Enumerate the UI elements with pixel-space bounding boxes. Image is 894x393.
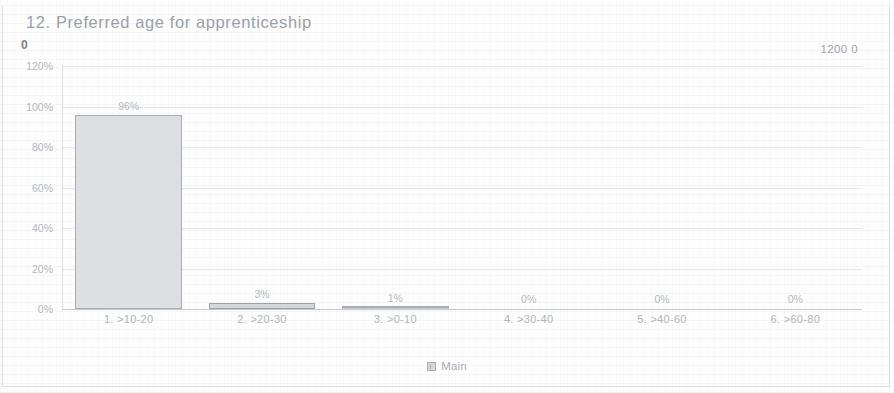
y-axis-tick-label: 0% [38, 303, 53, 315]
chart-legend: Main [0, 360, 894, 372]
header-left-value: 0 [21, 38, 28, 52]
bar-value-label: 0% [609, 293, 716, 305]
bar-slot: 0% [729, 66, 862, 309]
y-axis-tick-label: 100% [26, 101, 53, 113]
x-axis-tick-label: 5. >40-60 [637, 313, 687, 325]
page-title: 12. Preferred age for apprenticeship [26, 13, 312, 32]
x-axis-tick-label: 4. >30-40 [504, 313, 554, 325]
x-axis-tick-label: 2. >20-30 [237, 313, 287, 325]
bar-value-label: 0% [475, 293, 582, 305]
bar-value-label: 0% [742, 293, 849, 305]
x-axis-labels-group: 1. >10-202. >20-303. >0-104. >30-405. >4… [62, 313, 862, 335]
bar-value-label: 3% [210, 288, 315, 300]
bar-slot: 0% [595, 66, 728, 309]
x-axis-tick-label: 6. >60-80 [771, 313, 821, 325]
y-axis-tick-label: 20% [32, 263, 53, 275]
bar-slot: 3% [195, 66, 328, 309]
x-axis-baseline: 0% [62, 309, 862, 310]
bar-slot: 96% [62, 66, 195, 309]
legend-item-label: Main [441, 360, 467, 372]
y-axis-tick-label: 40% [32, 222, 53, 234]
series-color-swatch [427, 362, 436, 371]
bar-value-label: 96% [76, 100, 181, 112]
bar[interactable]: 3% [209, 303, 316, 309]
header-right-value: 1200 0 [820, 43, 858, 55]
bar-slot: 0% [462, 66, 595, 309]
chart-screenshot: 12. Preferred age for apprenticeship 0 1… [0, 0, 894, 393]
bar[interactable]: 96% [75, 115, 182, 309]
x-axis-tick-label: 3. >0-10 [374, 313, 417, 325]
bar[interactable]: 1% [342, 306, 449, 309]
y-axis-tick-label: 60% [32, 182, 53, 194]
bar-slot: 1% [329, 66, 462, 309]
bars-group: 96%3%1%0%0%0% [62, 66, 862, 309]
plot-area: 120%100%80%60%40%20%0% 96%3%1%0%0%0% [62, 66, 862, 309]
y-axis-tick-label: 120% [26, 60, 53, 72]
bar-value-label: 1% [342, 292, 449, 304]
x-axis-tick-label: 1. >10-20 [104, 313, 154, 325]
y-axis-tick-label: 80% [32, 141, 53, 153]
